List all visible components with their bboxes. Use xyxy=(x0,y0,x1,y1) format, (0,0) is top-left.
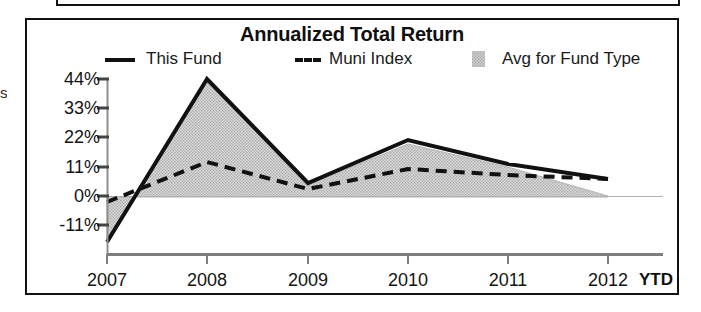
annualized-total-return-plot xyxy=(27,20,677,293)
left-margin-ink-artifact: s xyxy=(0,86,7,100)
annualized-total-return-panel: Annualized Total Return This Fund Muni I… xyxy=(25,18,679,295)
x-tick-label-2010: 2010 xyxy=(388,270,428,291)
panel-above-fragment xyxy=(56,0,680,6)
y-tick-label-33: 33% xyxy=(64,98,100,119)
y-tick-label-11: 11% xyxy=(65,157,100,178)
x-axis-ytd-label: YTD xyxy=(639,270,673,290)
y-tick-label-22: 22% xyxy=(64,127,100,148)
x-tick-label-2011: 2011 xyxy=(489,270,528,291)
x-axis-tick-labels: 2007 2008 2009 2010 2011 2012 xyxy=(27,270,677,296)
y-axis-tick-labels: 44% 33% 22% 11% 0% -11% xyxy=(27,20,100,293)
x-tick-label-2007: 2007 xyxy=(87,270,127,291)
x-tick-label-2012: 2012 xyxy=(588,270,628,291)
y-tick-label-neg11: -11% xyxy=(59,215,100,236)
y-tick-label-44: 44% xyxy=(64,69,100,90)
plot-area: 44% 33% 22% 11% 0% -11% 2007 2008 2009 2… xyxy=(27,20,677,293)
x-tick-label-2009: 2009 xyxy=(288,270,328,291)
y-tick-label-0: 0% xyxy=(74,186,100,207)
x-tick-label-2008: 2008 xyxy=(187,270,227,291)
